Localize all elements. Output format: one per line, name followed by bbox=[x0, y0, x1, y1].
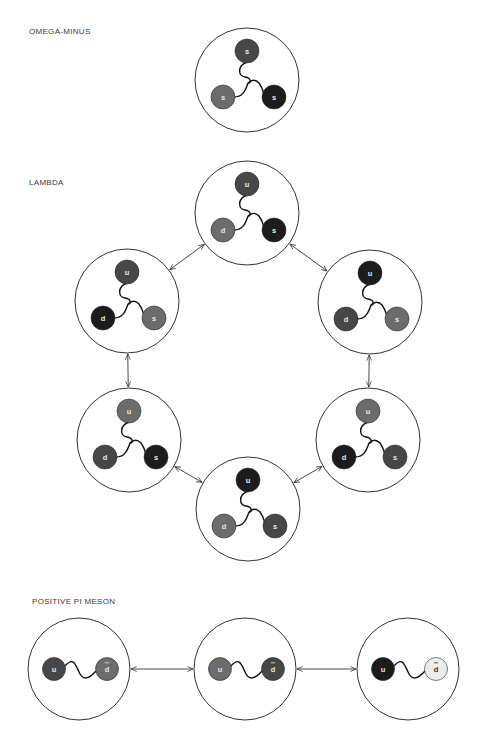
quark-s: s bbox=[263, 514, 287, 538]
quark-label: u bbox=[52, 665, 57, 674]
quark-label: u bbox=[366, 407, 371, 416]
quark-label: d bbox=[103, 453, 108, 462]
quark-label: s bbox=[272, 226, 276, 235]
quark-label: d bbox=[101, 314, 106, 323]
quark-u: u bbox=[209, 658, 232, 681]
quark-s: s bbox=[235, 39, 259, 63]
quark-label: s bbox=[221, 93, 225, 102]
quark-s: s bbox=[383, 445, 407, 469]
quark-label: d bbox=[221, 226, 226, 235]
quark-label: d bbox=[342, 453, 347, 462]
quark-d: d bbox=[334, 307, 358, 331]
quark-s: s bbox=[211, 85, 235, 109]
quark-u: u bbox=[115, 260, 139, 284]
quark-s: s bbox=[142, 306, 166, 330]
quark-s: s bbox=[262, 85, 286, 109]
omega-minus-particle: sss bbox=[195, 28, 299, 132]
quark-d: d bbox=[211, 218, 235, 242]
quark-label: u bbox=[218, 665, 223, 674]
quark-label: u bbox=[125, 268, 130, 277]
pi-meson-state-3: ud bbox=[357, 618, 459, 720]
quark-label: u bbox=[127, 407, 132, 416]
pi-meson-state-2: ud bbox=[194, 618, 296, 720]
lambda-state-2: uds bbox=[75, 249, 179, 353]
quark-label: d bbox=[434, 665, 439, 674]
quark-u: u bbox=[43, 658, 66, 681]
double-arrow-icon bbox=[294, 466, 322, 482]
quark-d: d bbox=[91, 306, 115, 330]
quark-d-bar: d bbox=[425, 658, 448, 681]
quark-u: u bbox=[236, 468, 260, 492]
quark-label: u bbox=[245, 180, 250, 189]
quark-s: s bbox=[144, 445, 168, 469]
pi-meson-states: ududud bbox=[28, 618, 459, 720]
quark-label: d bbox=[222, 522, 227, 531]
quark-u: u bbox=[235, 172, 259, 196]
quark-u: u bbox=[356, 399, 380, 423]
quark-label: u bbox=[368, 269, 373, 278]
quark-u: u bbox=[372, 658, 395, 681]
double-arrow-icon bbox=[175, 467, 202, 483]
quark-d-bar: d bbox=[96, 658, 119, 681]
quark-u: u bbox=[117, 399, 141, 423]
quark-label: s bbox=[152, 314, 156, 323]
lambda-particle-states: udsudsudsudsudsuds bbox=[75, 161, 422, 561]
quark-d: d bbox=[212, 514, 236, 538]
quark-label: s bbox=[154, 453, 158, 462]
quark-d: d bbox=[332, 445, 356, 469]
quark-s: s bbox=[385, 307, 409, 331]
quark-label: d bbox=[344, 315, 349, 324]
double-arrow-icon bbox=[170, 244, 205, 269]
quark-label: s bbox=[393, 453, 397, 462]
quark-label: s bbox=[272, 93, 276, 102]
lambda-state-5: uds bbox=[316, 388, 420, 492]
quark-s: s bbox=[262, 218, 286, 242]
pi-meson-state-1: ud bbox=[28, 618, 130, 720]
quark-label: u bbox=[381, 665, 386, 674]
quark-label: s bbox=[245, 47, 249, 56]
quark-d-bar: d bbox=[262, 658, 285, 681]
quark-label: d bbox=[105, 665, 110, 674]
quark-diagram: sss udsudsudsudsudsuds ududud bbox=[0, 0, 490, 737]
quark-label: s bbox=[395, 315, 399, 324]
lambda-state-4: uds bbox=[77, 388, 181, 492]
omega-minus-state: sss bbox=[195, 28, 299, 132]
quark-d: d bbox=[93, 445, 117, 469]
lambda-state-1: uds bbox=[195, 161, 299, 265]
quark-label: u bbox=[246, 476, 251, 485]
quark-label: s bbox=[273, 522, 277, 531]
lambda-state-6: uds bbox=[196, 457, 300, 561]
quark-u: u bbox=[358, 261, 382, 285]
quark-label: d bbox=[271, 665, 276, 674]
lambda-state-3: uds bbox=[318, 250, 422, 354]
double-arrow-icon bbox=[290, 244, 327, 271]
